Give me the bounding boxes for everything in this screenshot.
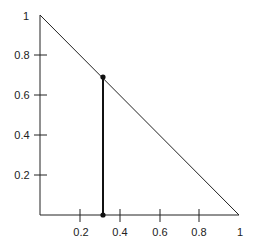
point-top (100, 74, 105, 79)
diagonal-line (40, 15, 239, 215)
x-tick-label: 0.6 (152, 226, 167, 238)
x-tick-label: 0.4 (112, 226, 127, 238)
y-tick-label: 0.8 (14, 49, 29, 61)
y-tick-label: 0.4 (14, 129, 29, 141)
x-tick-label: 1 (237, 226, 243, 238)
diagram: 1 0.8 0.6 0.4 0.2 0.2 0.4 0.6 0.8 1 (0, 0, 254, 251)
x-tick-label: 0.2 (73, 226, 88, 238)
point-bottom (100, 212, 105, 217)
y-tick-label: 0.6 (14, 89, 29, 101)
x-tick-label: 0.8 (191, 226, 206, 238)
y-tick-label: 1 (23, 10, 29, 22)
y-tick-label: 0.2 (14, 169, 29, 181)
